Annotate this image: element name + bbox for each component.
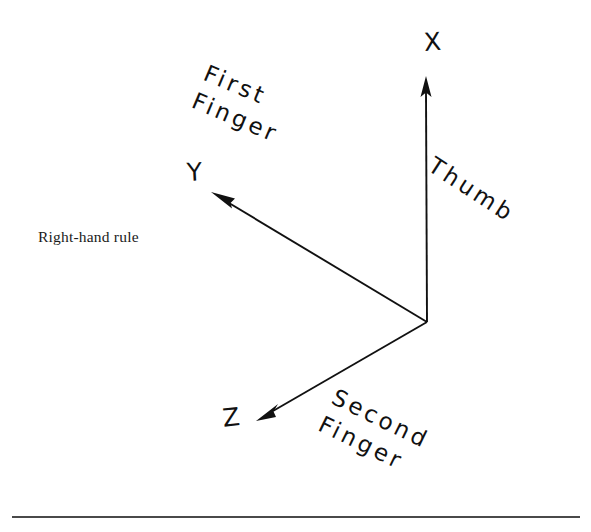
z-axis-arrowhead: [256, 404, 278, 421]
x-axis-label: X: [423, 27, 443, 57]
axes-diagram: [0, 0, 591, 532]
bottom-divider: [12, 516, 580, 518]
x-axis-group: [421, 76, 432, 322]
y-axis-label: Y: [186, 157, 204, 187]
y-axis-line: [229, 203, 427, 322]
x-axis-line: [426, 92, 427, 322]
y-axis-group: [211, 192, 427, 322]
figure-canvas: X Y Z Thumb First Finger Second Finger R…: [0, 0, 591, 532]
y-axis-arrowhead: [211, 192, 235, 209]
right-hand-rule-caption: Right-hand rule: [38, 228, 139, 246]
z-axis-label: Z: [221, 402, 242, 433]
